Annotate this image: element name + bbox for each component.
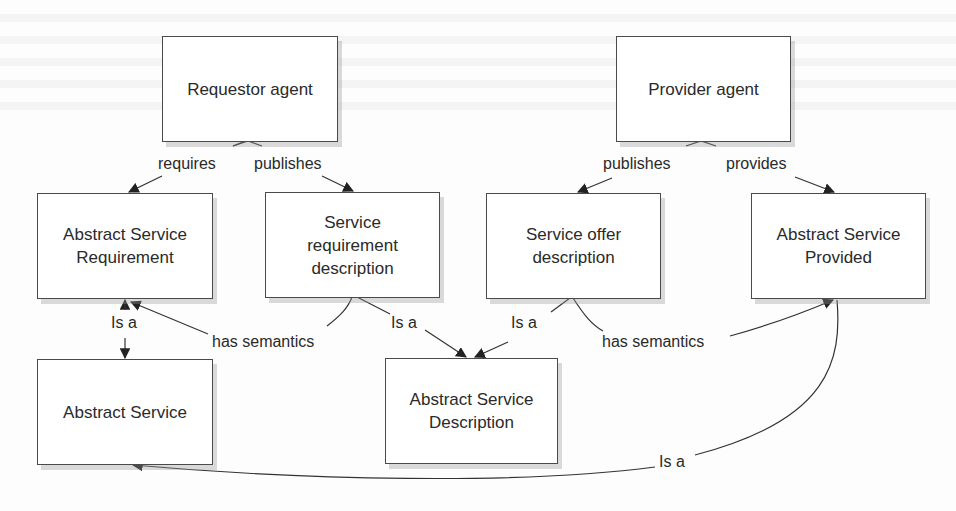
edge-has-semantics-right [573, 298, 603, 331]
node-requestor-agent: Requestor agent [162, 36, 338, 142]
node-abstract-service-requirement: Abstract Service Requirement [37, 193, 213, 299]
label-isa-bottom: Is a [659, 453, 685, 471]
label-provides: provides [726, 155, 786, 173]
label-has-semantics-left: has semantics [212, 333, 314, 351]
edge-publishes-right [578, 178, 612, 192]
label-isa-center-right: Is a [511, 314, 537, 332]
edge-requires-arrow [129, 176, 162, 192]
node-service-offer-description: Service offer description [486, 193, 661, 299]
node-abstract-service-description: Abstract Service Description [385, 358, 558, 464]
label-isa-center-left: Is a [391, 314, 417, 332]
label-publishes-right: publishes [603, 155, 671, 173]
label-has-semantics-right: has semantics [602, 333, 704, 351]
node-service-requirement-description: Service requirement description [265, 192, 440, 298]
label-isa-left: Is a [111, 314, 137, 332]
edge-publishes-left [322, 176, 353, 191]
edge-isa-bottom [695, 300, 838, 455]
label-publishes-left: publishes [254, 155, 322, 173]
edge-has-semantics-left [131, 302, 208, 334]
node-abstract-service-provided: Abstract Service Provided [751, 193, 926, 299]
label-requires: requires [158, 155, 216, 173]
node-abstract-service: Abstract Service [37, 359, 213, 465]
edge-isa-center-right [551, 298, 570, 312]
node-provider-agent: Provider agent [616, 36, 791, 142]
edge-isa-center-left [357, 297, 390, 314]
edge-provides [795, 177, 834, 192]
